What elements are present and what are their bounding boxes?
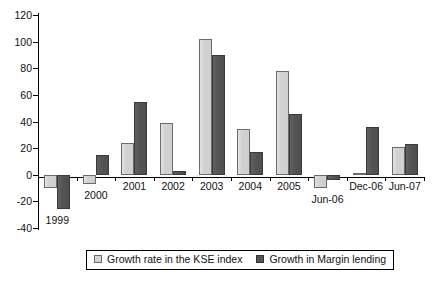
y-axis-tick-label: 60 [20,90,32,101]
bar-margin-lending [134,102,147,175]
y-axis-tick-label: 0 [26,170,32,181]
bar-group [192,15,231,228]
bar-kse-index [44,175,57,188]
x-axis-category-label: Dec-06 [349,181,383,192]
legend-swatch-kse-icon [94,255,102,263]
bar-kse-index [392,147,405,175]
bar-margin-lending [212,55,225,175]
y-axis-tick-label: -20 [17,196,32,207]
bar-margin-lending [405,144,418,175]
bar-group [270,15,309,228]
bar-kse-index [276,71,289,175]
legend-entry: Growth rate in the KSE index [94,254,242,265]
bar-kse-index [121,143,134,175]
bar-kse-index [83,175,96,184]
y-axis-tick-label: 40 [20,116,32,127]
x-axis-category-label: 2003 [200,181,223,192]
bar-kse-index [314,175,327,188]
x-axis-category-label: 2002 [161,181,184,192]
y-axis-tick-label: -40 [17,223,32,234]
legend-swatch-margin-icon [256,255,264,263]
bar-kse-index [160,123,173,175]
x-axis-tick-mark [424,177,425,181]
bar-margin-lending [327,175,340,180]
x-axis-category-label: 2005 [277,181,300,192]
bar-kse-index [353,173,366,175]
x-axis-category-label: 2004 [239,181,262,192]
bar-group [347,15,386,228]
bar-group [115,15,154,228]
bar-margin-lending [173,171,186,175]
x-axis-category-label: Jun-06 [311,194,343,205]
bar-group [231,15,270,228]
legend-entry: Growth in Margin lending [256,254,386,265]
bar-margin-lending [250,152,263,175]
legend-label: Growth rate in the KSE index [107,254,242,265]
x-axis-category-label: 1999 [46,215,69,226]
bar-kse-index [237,129,250,174]
chart-legend: Growth rate in the KSE indexGrowth in Ma… [86,250,394,270]
bar-group [385,15,424,228]
legend-label: Growth in Margin lending [269,254,386,265]
bar-margin-lending [96,155,109,175]
x-axis-category-label: 2001 [123,181,146,192]
x-axis-category-label: 2000 [84,190,107,201]
y-axis-tick-mark [33,228,38,229]
bar-margin-lending [366,127,379,175]
y-axis-tick-label: 20 [20,143,32,154]
bar-kse-index [199,39,212,175]
y-axis-tick-label: 120 [14,10,32,21]
bar-margin-lending [289,114,302,175]
x-axis-category-label: Jun-07 [389,181,421,192]
bar-margin-lending [57,175,70,210]
y-axis-tick-label: 100 [14,36,32,47]
bar-group [154,15,193,228]
y-axis-tick-label: 80 [20,63,32,74]
bar-group [38,15,77,228]
bar-chart-figure: -40-20020406080100120 199920002001200220… [0,0,438,285]
